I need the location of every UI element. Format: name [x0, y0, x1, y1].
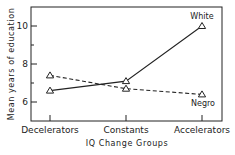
x-tick-label: Accelerators [174, 125, 230, 135]
triangle-marker-icon [46, 72, 53, 78]
x-tick-label: Decelerators [21, 125, 79, 135]
y-tick-label: 8 [22, 59, 28, 69]
y-axis-title: Mean years of education [7, 8, 16, 121]
y-axis-ticks: 6810 [17, 21, 37, 107]
triangle-marker-icon [122, 78, 129, 84]
x-axis-title: IQ Change Groups [86, 139, 169, 148]
y-tick-label: 6 [22, 97, 28, 107]
x-tick-label: Constants [103, 125, 148, 135]
series-lines: WhiteNegro [46, 12, 215, 108]
y-tick-label: 10 [17, 21, 29, 31]
triangle-marker-icon [198, 23, 205, 29]
series-label-negro: Negro [191, 99, 215, 108]
series-label-white: White [190, 12, 213, 21]
line-chart: 6810 DeceleratorsConstantsAccelerators W… [0, 0, 235, 155]
x-axis-ticks: DeceleratorsConstantsAccelerators [21, 115, 230, 135]
